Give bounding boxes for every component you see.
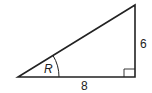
height-label: 6 xyxy=(140,37,147,51)
triangle-diagram: R 8 6 xyxy=(0,0,152,93)
base-label: 8 xyxy=(81,79,88,93)
angle-label: R xyxy=(44,62,53,76)
right-triangle xyxy=(18,5,135,77)
right-angle-marker xyxy=(124,69,135,77)
angle-arc xyxy=(53,56,59,78)
